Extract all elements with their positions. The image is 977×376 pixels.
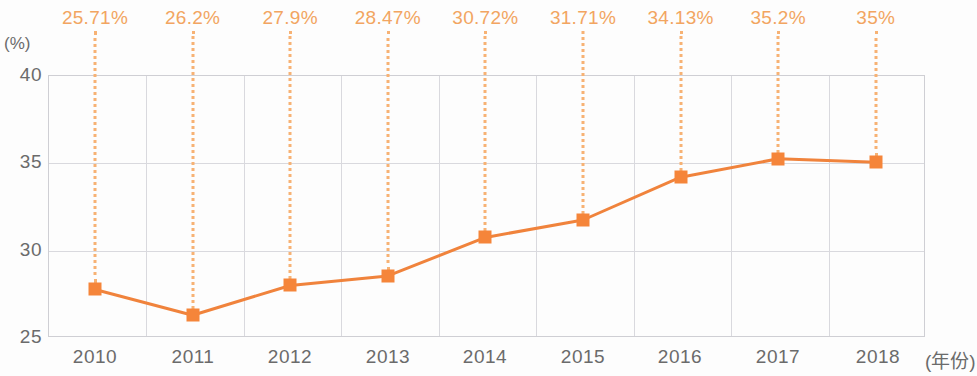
x-tick-label-2011: 2011 (172, 346, 215, 368)
gridline-vertical-5 (536, 76, 537, 336)
x-tick-label-2017: 2017 (756, 346, 800, 368)
x-tick-label-2013: 2013 (366, 346, 410, 368)
data-point-2011[interactable] (186, 309, 199, 322)
data-point-2018[interactable] (869, 156, 882, 169)
leader-line-2015 (582, 31, 585, 214)
y-tick-label-35: 35 (2, 151, 42, 173)
x-tick-label-2010: 2010 (73, 346, 117, 368)
gridline-vertical-3 (341, 76, 342, 336)
y-tick-label-30: 30 (2, 239, 42, 261)
gridline-vertical-7 (731, 76, 732, 336)
y-axis-unit-label: (%) (4, 34, 30, 54)
data-point-2014[interactable] (479, 231, 492, 244)
data-point-2017[interactable] (772, 152, 785, 165)
leader-line-2010 (94, 31, 97, 283)
gridline-vertical-1 (146, 76, 147, 336)
gridline-vertical-4 (439, 76, 440, 336)
leader-line-2011 (191, 31, 194, 309)
gridline-vertical-2 (244, 76, 245, 336)
data-point-2016[interactable] (674, 171, 687, 184)
data-point-2010[interactable] (89, 283, 102, 296)
x-tick-label-2015: 2015 (561, 346, 605, 368)
data-label-2012: 27.9% (263, 7, 318, 29)
y-tick-label-40: 40 (2, 64, 42, 86)
data-label-2018: 35% (856, 7, 895, 29)
data-label-2016: 34.13% (647, 7, 713, 29)
gridline-horizontal-30 (49, 251, 924, 252)
data-label-2010: 25.71% (62, 7, 128, 29)
data-label-2011: 26.2% (165, 7, 220, 29)
leader-line-2012 (289, 31, 292, 279)
gridline-vertical-6 (634, 76, 635, 336)
leader-line-2017 (777, 31, 780, 153)
leader-line-2016 (679, 31, 682, 171)
leader-line-2014 (484, 31, 487, 231)
x-tick-label-2016: 2016 (658, 346, 702, 368)
data-label-2014: 30.72% (452, 7, 518, 29)
data-label-2015: 31.71% (550, 7, 616, 29)
x-tick-label-2018: 2018 (856, 346, 900, 368)
data-point-2013[interactable] (381, 269, 394, 282)
y-tick-label-25: 25 (2, 326, 42, 348)
data-point-2015[interactable] (577, 213, 590, 226)
data-point-2012[interactable] (284, 279, 297, 292)
x-axis-unit-label: (年份) (925, 346, 976, 373)
leader-line-2018 (874, 31, 877, 156)
leader-line-2013 (386, 31, 389, 270)
x-tick-label-2012: 2012 (268, 346, 312, 368)
data-label-2013: 28.47% (355, 7, 421, 29)
x-tick-label-2014: 2014 (463, 346, 507, 368)
line-chart: (%) 40 35 30 25 25.71%26.2%27.9%28.47%30… (0, 0, 977, 376)
data-label-2017: 35.2% (751, 7, 806, 29)
gridline-vertical-8 (829, 76, 830, 336)
